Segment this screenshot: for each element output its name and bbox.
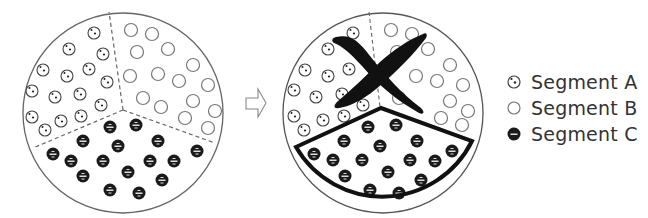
before-pie <box>23 12 223 213</box>
legend: Segment A Segment B Segment C <box>506 69 638 147</box>
legend-label: Segment B <box>531 97 637 119</box>
after-pie <box>283 12 483 213</box>
legend-label: Segment C <box>531 123 638 145</box>
dotted-circle-icon <box>506 74 522 90</box>
legend-label: Segment A <box>531 71 637 93</box>
filled-circle-icon <box>506 126 522 142</box>
legend-item-segment-b: Segment B <box>506 95 638 121</box>
legend-item-segment-a: Segment A <box>506 69 638 95</box>
open-circle-icon <box>506 100 522 116</box>
right-arrow-icon <box>246 89 266 117</box>
legend-item-segment-c: Segment C <box>506 121 638 147</box>
